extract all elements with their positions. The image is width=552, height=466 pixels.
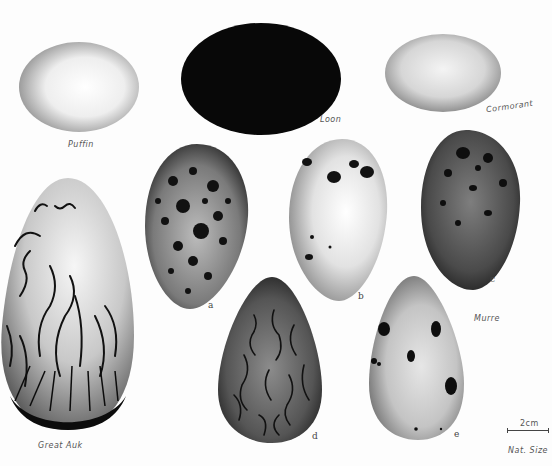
puffin-egg [17, 40, 142, 134]
egg-label-a: a [208, 300, 213, 310]
scale-text: 2cm [520, 419, 539, 428]
puffin-label: Puffin [68, 140, 94, 149]
murre-egg-c [418, 128, 524, 292]
murre-egg-e [366, 274, 468, 442]
great-auk-label: Great Auk [38, 441, 83, 450]
egg-label-e: e [454, 429, 459, 439]
egg-plate-illustration: Puffin Loon Cormorant a [0, 0, 552, 466]
egg-label-b: b [358, 291, 364, 301]
great-auk-egg [0, 176, 136, 432]
egg-label-c: c [490, 274, 495, 284]
egg-label-d: d [312, 431, 318, 441]
loon-label: Loon [320, 115, 341, 124]
loon-egg [180, 22, 342, 136]
murre-egg-d [214, 275, 326, 445]
scale-bar [507, 430, 549, 431]
cormorant-egg [384, 33, 502, 113]
murre-label: Murre [474, 314, 500, 323]
scale-note: Nat. Size [508, 446, 548, 455]
